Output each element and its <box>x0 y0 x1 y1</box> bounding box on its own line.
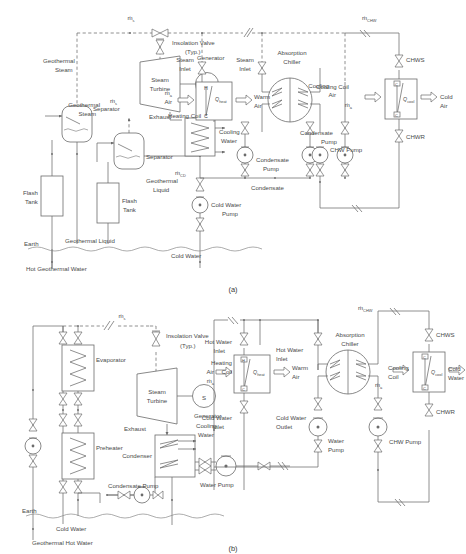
b-label-heating-coil-a: Heating <box>211 359 232 366</box>
a-cooling-coil: C C <box>345 30 437 142</box>
a-label-flash-tank-2a: Flash <box>122 197 137 204</box>
b-label-preheater: Preheater <box>96 444 123 451</box>
b-insolation-valve-icon <box>152 331 160 346</box>
b-label-cold-water: Cold Water <box>56 525 86 532</box>
b-chwp-valve-lower <box>374 440 382 452</box>
b-label-cold-water-inlet-a: Cold Water <box>202 414 232 421</box>
b-label-hot-water-inlet-2a: Hot Water <box>276 346 303 353</box>
a-label-chws: CHWS <box>406 56 425 63</box>
a-label-geo-liquid-2: Geothermal Liquid <box>65 237 115 244</box>
b-label-water-pump-b: Pump <box>328 446 345 453</box>
a-cp2-valve-lower <box>306 164 314 176</box>
b-label-earth: Earth <box>22 507 37 514</box>
b-evap-valve-left-top <box>59 332 67 344</box>
b-water-pump-chiller <box>214 398 327 467</box>
b-pre-valve-right-bot <box>74 481 82 493</box>
a-label-geothermal-steam-1a: Geothermal <box>43 57 75 64</box>
a-flash-tank-left <box>41 140 63 268</box>
b-label-steam-turbine-b: Turbine <box>147 397 168 404</box>
a-label-absorption-chiller-b: Chiller <box>283 58 300 65</box>
diagram-b: S <box>22 304 465 553</box>
a-chiller-steam-valve <box>258 62 266 74</box>
a-label-condensate-pump-1a: Condensate <box>256 156 289 163</box>
a-chiller-bot-valve-lower <box>341 164 349 176</box>
a-label-cooling-air-b: Air <box>329 91 336 98</box>
b-cond-valve-2 <box>199 466 211 474</box>
a-label-cold-water: Cold Water <box>171 252 201 259</box>
b-mid-valve-left <box>59 414 67 426</box>
b-condenser <box>107 435 216 525</box>
b-chw-pump <box>369 398 429 506</box>
a-label-warm-air-b: Air <box>254 102 261 109</box>
b-label-geothermal-hot-water: Geothermal Hot Water <box>32 539 93 546</box>
a-cwp-valve-upper <box>196 178 204 191</box>
b-label-cold-water-out-b: Water <box>448 374 464 381</box>
b-label-cold-water-out-a: Cold <box>448 365 461 372</box>
a-chwr-valve <box>395 130 403 142</box>
a-label-geo-steam-2b: Steam <box>78 110 96 117</box>
a-label-chw-pump: CHW Pump <box>330 146 363 153</box>
a-chws-valve <box>395 55 403 67</box>
b-label-cooling-coil-b: Coil <box>388 373 399 380</box>
b-heating-coil-cold-marker: C <box>242 387 245 392</box>
b-label-air-flow-cooling: ṁa <box>375 381 383 390</box>
b-condensate-pump <box>106 487 163 503</box>
b-geo-valve-lower <box>29 455 37 467</box>
b-label-hot-water-inlet-1b: Inlet <box>213 347 225 354</box>
b-label-chwr: CHWR <box>436 408 456 415</box>
b-cooling-coil-bot-marker: C <box>423 386 426 391</box>
a-label-cold-air-b: Air <box>440 102 447 109</box>
b-label-typ: (Typ.) <box>180 342 196 349</box>
a-label-generator: Generator <box>197 54 224 61</box>
a-label-hot-geothermal-water: Hot Geothermal Water <box>26 265 87 272</box>
b-generator-symbol: S <box>202 394 206 401</box>
a-label-steam-turbine-a: Steam <box>151 76 169 83</box>
b-chiller-hw-valve <box>314 333 322 345</box>
a-chiller-bot-valve-upper <box>341 122 349 134</box>
b-label-air: Air <box>207 368 214 375</box>
a-header-valve <box>152 29 168 37</box>
b-geo-valve-upper <box>29 419 37 431</box>
b-cooling-coil-top-marker: C <box>423 355 426 360</box>
figure-canvas: S <box>0 0 466 554</box>
a-label-cold-air-a: Cold <box>440 93 453 100</box>
b-label-hot-water-inlet-1a: Hot Water <box>205 338 232 345</box>
a-label-condensate-pump-2a: Condensate <box>300 129 333 136</box>
b-wpc-valve <box>314 398 322 410</box>
b-evap-valve-left-bot <box>59 393 67 405</box>
a-label-insolation-valve: Insolation Valve <box>172 39 215 46</box>
b-label-cold-water-outlet-a: Cold Water <box>276 414 306 421</box>
caption-a: (a) <box>228 285 237 294</box>
a-label-heating-coil: Heating Coil <box>168 112 201 119</box>
a-heating-coil-inlet-valve <box>198 62 206 74</box>
a-label-cold-water-pump-a: Cold Water <box>211 201 241 208</box>
a-label-condensate: Condensate <box>251 184 284 191</box>
b-evap-valve-right-bot <box>74 393 82 405</box>
b-label-cooling-coil-a: Cooling <box>388 364 409 371</box>
b-cp-valve <box>118 491 130 499</box>
b-label-insolation-valve: Insolation Valve <box>166 332 209 339</box>
a-chwp-valve <box>316 164 324 176</box>
a-cwp-valve-lower <box>196 218 204 231</box>
a-label-steam-inlet-1a: Steam <box>176 56 194 63</box>
a-label-separator-2: Separator <box>146 153 173 160</box>
a-label-flash-tank-2b: Tank <box>123 206 137 213</box>
a-cooling-coil-top-marker: C <box>395 82 398 87</box>
a-label-steam-flow-top: ṁs <box>127 14 134 23</box>
b-label-chws: CHWS <box>436 331 455 338</box>
b-chwp-valve <box>374 398 382 410</box>
a-label-flash-tank-1a: Flash <box>23 189 38 196</box>
b-label-evaporator: Evaporator <box>96 356 126 363</box>
b-cond-valve-1 <box>199 458 211 466</box>
a-label-warm-air-a: Warm <box>254 93 270 100</box>
diagram-a: S <box>23 14 453 294</box>
a-label-steam-inlet-2a: Steam <box>236 56 254 63</box>
b-evaporator <box>59 332 94 433</box>
a-label-air-heating: Air <box>165 98 172 105</box>
b-label-heating-coil-b: Coil <box>222 368 233 375</box>
a-label-cold-water-pump-b: Pump <box>222 210 239 217</box>
b-label-condensate-pump: Condensate Pump <box>108 482 159 489</box>
b-label-absorption-chiller-b: Chiller <box>341 340 358 347</box>
b-label-warm-air-b: Air <box>292 373 299 380</box>
b-label-condenser: Condenser <box>122 452 152 459</box>
